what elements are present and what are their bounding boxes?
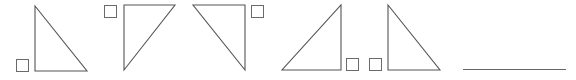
- answer-checkbox-4[interactable]: [347, 59, 359, 71]
- option-3: [193, 5, 264, 70]
- option-5: [370, 5, 441, 71]
- right-triangle-bottom-left: [35, 6, 87, 71]
- option-2: [105, 5, 176, 70]
- triangle-worksheet: [0, 0, 576, 80]
- answer-checkbox-1[interactable]: [17, 60, 29, 72]
- answer-checkbox-5[interactable]: [370, 59, 382, 71]
- option-4: [282, 5, 359, 71]
- triangle-options: [17, 5, 441, 72]
- option-1: [17, 6, 88, 72]
- right-triangle-bottom-left: [388, 5, 440, 70]
- right-triangle-top-left: [124, 5, 175, 70]
- answer-checkbox-3[interactable]: [252, 6, 264, 18]
- answer-checkbox-2[interactable]: [105, 6, 117, 18]
- right-triangle-bottom-right: [282, 5, 341, 70]
- right-triangle-top-right: [193, 5, 245, 70]
